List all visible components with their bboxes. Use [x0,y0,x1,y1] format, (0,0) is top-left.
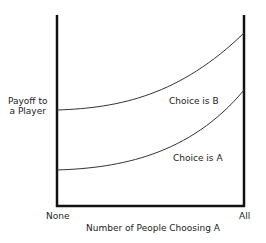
y-axis-label-line1: Payoff to [8,96,47,106]
y-axis-label: Payoff to a Player [8,96,47,116]
curve-label-b: Choice is B [169,96,219,106]
x-min-label: None [46,211,69,221]
diagram-canvas [0,0,266,243]
curve-label-a: Choice is A [173,153,223,163]
x-max-label: All [239,211,250,221]
x-axis-label: Number of People Choosing A [86,223,220,233]
y-axis-label-line2: a Player [8,106,47,116]
